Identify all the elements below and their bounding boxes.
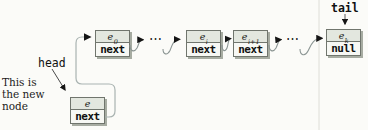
- node-new-next-field: next: [71, 109, 104, 123]
- node-new-element: e: [71, 98, 104, 109]
- node-new: e next: [70, 97, 105, 124]
- chain-ellipsis-right: ⋯: [286, 34, 300, 44]
- chain-ellipsis-left: ⋯: [149, 34, 163, 44]
- node-e0: e0 next: [95, 30, 130, 57]
- node-ei-element: ei: [187, 31, 220, 42]
- pointer-ellipsis-to-ei: [163, 39, 180, 54]
- node-ek: ek null: [326, 29, 361, 56]
- node-e0-element: e0: [96, 31, 129, 42]
- new-node-annotation: This is the new node: [2, 76, 54, 112]
- pointer-e0-to-ellipsis: [130, 40, 143, 51]
- node-ei1: ei+1 next: [233, 30, 268, 57]
- node-e0-next-field: next: [96, 42, 129, 56]
- pointer-ellipsis-to-ek: [300, 38, 322, 54]
- node-ei: ei next: [186, 30, 221, 57]
- node-ei1-element: ei+1: [234, 31, 267, 42]
- node-ek-null-field: null: [327, 41, 360, 55]
- node-ei-next-field: next: [187, 42, 220, 56]
- tail-pointer-label: tail: [331, 1, 359, 15]
- pointer-ei-to-ei1: [222, 39, 231, 51]
- node-ek-element: ek: [327, 30, 360, 41]
- head-pointer-label: head: [38, 56, 66, 70]
- pointer-ei1-to-ellipsis: [269, 40, 281, 51]
